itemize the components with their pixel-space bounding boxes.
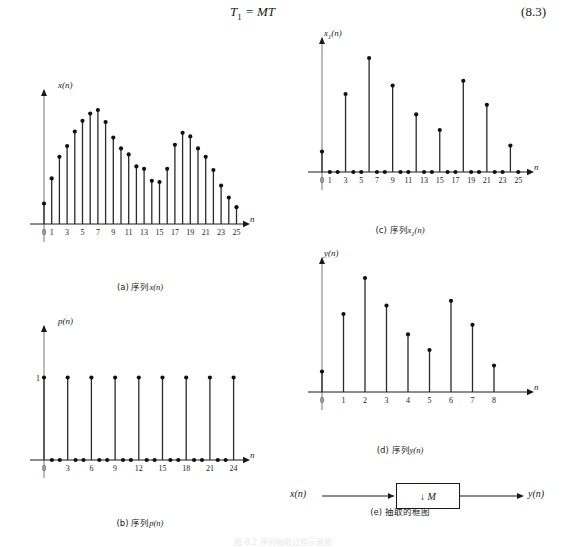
x-tick-label: 23 [217,228,225,237]
x-tick-label: 17 [171,228,179,237]
x-tick-label: 0 [320,396,324,405]
x-axis-label-a: n [250,214,255,224]
x-tick-label: 13 [420,176,428,185]
decimator-box-label: ↓ M [397,491,459,502]
x-tick-label: 1 [50,228,54,237]
x-tick-label: 5 [81,228,85,237]
x-tick-label: 3 [66,464,70,473]
x-tick-label: 15 [436,176,444,185]
x-tick-label: 1 [342,396,346,405]
x-axis-label-c: n [534,162,539,172]
caption-b: (b) 序列p(n) [117,516,164,530]
y-axis-label-d: y(n) [324,248,339,260]
x-tick-label: 5 [428,396,432,405]
stem-plot-y-n: y(n) n 012345678 [296,250,546,410]
x-tick-label: 11 [404,176,412,185]
x-tick-label: 9 [391,176,395,185]
x-tick-label: 1 [328,176,332,185]
figure-caption: 图 8.2 序列抽取过程示意图 [234,536,332,547]
x-tick-label: 3 [385,396,389,405]
stem-plot-x-n-canvas [18,82,268,242]
x-tick-label: 2 [363,396,367,405]
x-tick-label: 4 [406,396,410,405]
caption-c: (c) 序列x1(n) [376,223,425,237]
y-axis-label-a: x(n) [58,80,73,92]
x-tick-label: 5 [359,176,363,185]
decimation-block-diagram: x(n) y(n) ↓ M [290,478,560,524]
x-tick-label: 6 [89,464,93,473]
equation-expression: T1 = MT [230,4,275,22]
x-tick-label: 21 [206,464,214,473]
x-tick-label: 11 [125,228,133,237]
x-tick-label: 7 [96,228,100,237]
x-tick-label: 19 [186,228,194,237]
y-axis-label-b: p(n) [58,316,73,328]
x-tick-label: 25 [514,176,522,185]
x-tick-label: 19 [467,176,475,185]
x-tick-label: 0 [42,464,46,473]
x-tick-label: 9 [113,464,117,473]
stem-plot-x-n: x(n) n 0135791113151719212325 [18,82,268,242]
stem-plot-p-n: p(n) n 036912151821241 [18,318,268,478]
x-axis-label-d: n [534,382,539,392]
caption-a: (a) 序列x(n) [117,280,163,294]
stem-plot-x1-n: x1(n) n 0135791113151719212325 [296,30,546,190]
equation-line: T1 = MT (8.3) [0,4,566,24]
x-tick-label: 3 [344,176,348,185]
x-tick-label: 13 [140,228,148,237]
y-axis-label-c: x1(n) [324,28,342,40]
x-tick-label: 18 [182,464,190,473]
x-tick-label: 12 [135,464,143,473]
stem-plot-x1-n-canvas [296,30,546,190]
stem-plot-p-n-canvas [18,318,268,478]
x-tick-label: 0 [320,176,324,185]
x-tick-label: 15 [159,464,167,473]
x-tick-label: 25 [233,228,241,237]
y-tick-label: 1 [28,373,40,382]
x-tick-label: 9 [111,228,115,237]
caption-e: (e) 抽取的框图 [370,505,430,517]
x-tick-label: 21 [483,176,491,185]
x-tick-label: 23 [499,176,507,185]
equation-number: (8.3) [521,4,546,20]
x-tick-label: 21 [202,228,210,237]
x-tick-label: 0 [42,228,46,237]
caption-d: (d) 序列y(n) [377,443,423,457]
x-tick-label: 6 [449,396,453,405]
stem-plot-y-n-canvas [296,250,546,410]
x-tick-label: 17 [451,176,459,185]
x-tick-label: 15 [156,228,164,237]
x-axis-label-b: n [250,450,255,460]
x-tick-label: 3 [65,228,69,237]
x-tick-label: 24 [230,464,238,473]
x-tick-label: 7 [471,396,475,405]
x-tick-label: 8 [492,396,496,405]
x-tick-label: 7 [375,176,379,185]
